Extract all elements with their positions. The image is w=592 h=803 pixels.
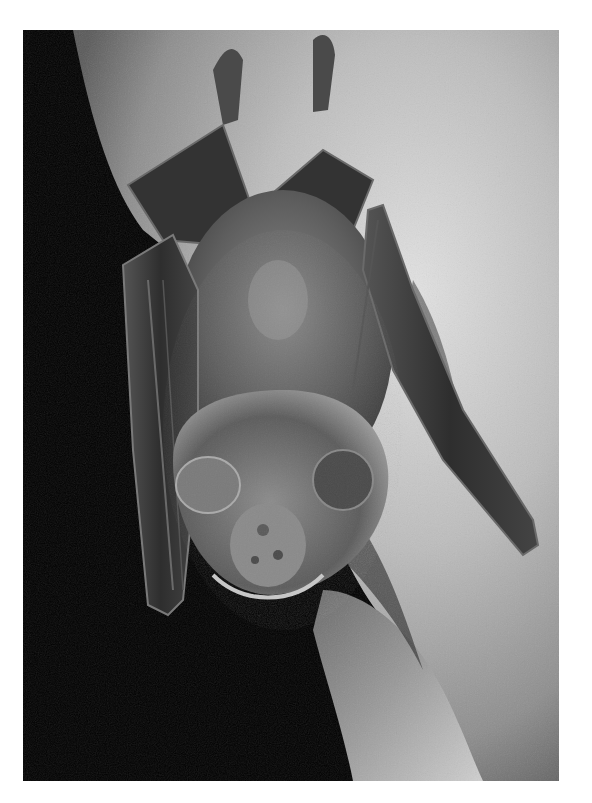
bat-photo-illustration	[23, 30, 559, 781]
bat-photo: Grayscale photograph of a bat hanging up…	[23, 30, 559, 781]
